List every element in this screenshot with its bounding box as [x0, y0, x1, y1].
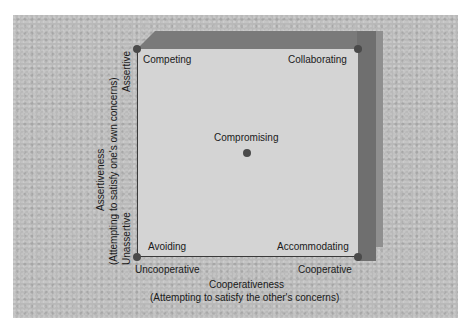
corner-dot-top-right: [354, 45, 362, 53]
y-axis-low-label: Unassertive: [121, 212, 133, 265]
center-dot: [243, 149, 251, 157]
back-slab-shadow: [375, 31, 383, 247]
mode-avoiding: Avoiding: [148, 242, 186, 252]
y-axis-title: Assertiveness: [95, 149, 107, 211]
y-axis-description: (Attempting to satisfy one's own concern…: [108, 77, 120, 265]
corner-dot-bottom-left: [133, 253, 141, 261]
top-slab-edge: [155, 31, 376, 50]
mode-collaborating: Collaborating: [288, 55, 347, 65]
mode-compromising: Compromising: [214, 133, 278, 143]
x-axis-description: (Attempting to satisfy the other's conce…: [150, 293, 339, 303]
x-axis-title: Cooperativeness: [209, 280, 284, 290]
x-axis-low-label: Uncooperative: [135, 265, 199, 275]
conflict-modes-diagram: Competing Collaborating Compromising Avo…: [0, 0, 469, 334]
mode-competing: Competing: [143, 55, 191, 65]
corner-dot-top-left: [133, 45, 141, 53]
y-axis-high-label: Assertive: [121, 51, 133, 92]
corner-dot-bottom-right: [354, 253, 362, 261]
x-axis-high-label: Cooperative: [298, 265, 352, 275]
right-slab-edge: [357, 31, 376, 261]
mode-accommodating: Accommodating: [277, 242, 349, 252]
